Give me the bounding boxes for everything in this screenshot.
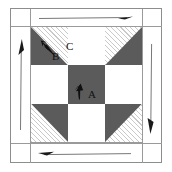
center-patch (68, 65, 105, 103)
quilt-block-diagram: A B C (0, 0, 172, 172)
edge-top-center (68, 27, 105, 65)
corner-bottom-left (31, 104, 68, 142)
patch-grid (31, 27, 142, 142)
edge-middle-left (31, 65, 68, 103)
border-seam-bottom-horizontal (11, 143, 162, 144)
edge-middle-right (105, 65, 142, 103)
edge-bottom-center (68, 104, 105, 142)
corner-top-right (105, 27, 142, 65)
corner-top-left (31, 27, 68, 65)
patch-label-b: B (52, 51, 59, 62)
patch-label-a: A (88, 89, 96, 100)
corner-bottom-right (105, 104, 142, 142)
patch-label-c: C (66, 41, 73, 52)
